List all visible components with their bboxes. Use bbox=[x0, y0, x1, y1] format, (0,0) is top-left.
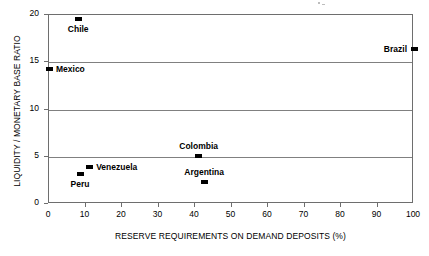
data-point-label-peru: Peru bbox=[71, 179, 90, 189]
x-tick-label-70: 70 bbox=[284, 209, 324, 219]
data-point-label-colombia: Colombia bbox=[179, 141, 218, 151]
scan-artifact bbox=[322, 4, 325, 5]
x-tick-label-30: 30 bbox=[138, 209, 178, 219]
x-tick-label-10: 10 bbox=[65, 209, 105, 219]
data-point-brazil bbox=[411, 47, 418, 51]
x-tick-mark-30 bbox=[158, 203, 159, 207]
x-tick-mark-40 bbox=[194, 203, 195, 207]
y-tick-label-5: 5 bbox=[5, 150, 39, 160]
gridline-y-10 bbox=[49, 110, 412, 111]
scan-artifact bbox=[318, 2, 320, 4]
data-point-label-venezuela: Venezuela bbox=[96, 162, 137, 172]
data-point-label-chile: Chile bbox=[68, 24, 89, 34]
data-point-venezuela bbox=[86, 165, 93, 169]
data-point-argentina bbox=[201, 180, 208, 184]
x-tick-label-50: 50 bbox=[211, 209, 251, 219]
data-point-mexico bbox=[46, 67, 53, 71]
x-tick-label-90: 90 bbox=[357, 209, 397, 219]
x-tick-label-100: 100 bbox=[393, 209, 429, 219]
x-tick-mark-60 bbox=[267, 203, 268, 207]
x-tick-label-80: 80 bbox=[320, 209, 360, 219]
x-tick-label-60: 60 bbox=[247, 209, 287, 219]
data-point-chile bbox=[75, 17, 82, 21]
x-tick-label-0: 0 bbox=[28, 209, 68, 219]
y-tick-label-15: 15 bbox=[5, 55, 39, 65]
x-tick-label-20: 20 bbox=[101, 209, 141, 219]
data-point-label-mexico: Mexico bbox=[56, 64, 85, 74]
data-point-label-brazil: Brazil bbox=[384, 44, 407, 54]
x-tick-mark-80 bbox=[340, 203, 341, 207]
y-tick-mark-0 bbox=[44, 203, 48, 204]
x-tick-mark-10 bbox=[85, 203, 86, 207]
x-tick-mark-20 bbox=[121, 203, 122, 207]
x-tick-label-40: 40 bbox=[174, 209, 214, 219]
data-point-peru bbox=[77, 172, 84, 176]
x-tick-mark-50 bbox=[231, 203, 232, 207]
gridline-y-5 bbox=[49, 157, 412, 158]
y-tick-label-20: 20 bbox=[5, 8, 39, 18]
gridline-y-15 bbox=[49, 62, 412, 63]
x-tick-mark-70 bbox=[304, 203, 305, 207]
data-point-colombia bbox=[195, 154, 202, 158]
y-tick-label-0: 0 bbox=[5, 197, 39, 207]
x-tick-mark-90 bbox=[377, 203, 378, 207]
y-tick-label-10: 10 bbox=[5, 103, 39, 113]
plot-area: ChileMexicoBrazilColombiaVenezuelaPeruAr… bbox=[48, 14, 413, 203]
data-point-label-argentina: Argentina bbox=[184, 167, 224, 177]
x-axis-title: RESERVE REQUIREMENTS ON DEMAND DEPOSITS … bbox=[48, 231, 413, 241]
scatter-chart-figure: LIQUIDITY / MONETARY BASE RATIO RESERVE … bbox=[0, 0, 429, 256]
